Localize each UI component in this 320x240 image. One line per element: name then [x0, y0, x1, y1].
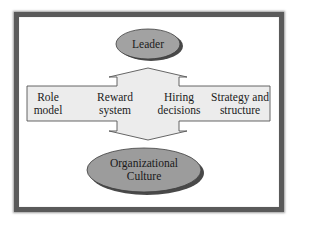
- culture-label: Organizational Culture: [110, 157, 178, 183]
- culture-label-line2: Culture: [110, 170, 178, 183]
- mechanism-strategy-structure-line2: structure: [211, 104, 269, 117]
- mechanism-role-model-line1: Role: [34, 91, 63, 104]
- culture-label-line1: Organizational: [110, 157, 178, 170]
- mechanism-reward-system: Reward system: [97, 91, 133, 117]
- mechanism-reward-system-line2: system: [97, 104, 133, 117]
- mechanism-hiring-decisions-line1: Hiring: [158, 91, 201, 104]
- mechanism-role-model: Role model: [34, 91, 63, 117]
- mechanism-strategy-structure: Strategy and structure: [211, 91, 269, 117]
- mechanism-strategy-structure-line1: Strategy and: [211, 91, 269, 104]
- mechanism-role-model-line2: model: [34, 104, 63, 117]
- leader-text: Leader: [132, 38, 164, 50]
- mechanism-reward-system-line1: Reward: [97, 91, 133, 104]
- leader-label: Leader: [132, 38, 164, 51]
- mechanism-hiring-decisions-line2: decisions: [158, 104, 201, 117]
- mechanism-hiring-decisions: Hiring decisions: [158, 91, 201, 117]
